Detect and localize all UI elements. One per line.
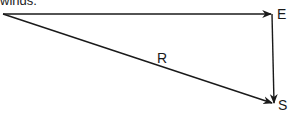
label-r: R bbox=[157, 50, 167, 66]
label-s: S bbox=[278, 97, 287, 113]
vector-diagram: E S R bbox=[0, 0, 289, 116]
south-vector bbox=[272, 14, 274, 103]
label-e: E bbox=[277, 6, 286, 22]
resultant-vector bbox=[3, 14, 272, 103]
